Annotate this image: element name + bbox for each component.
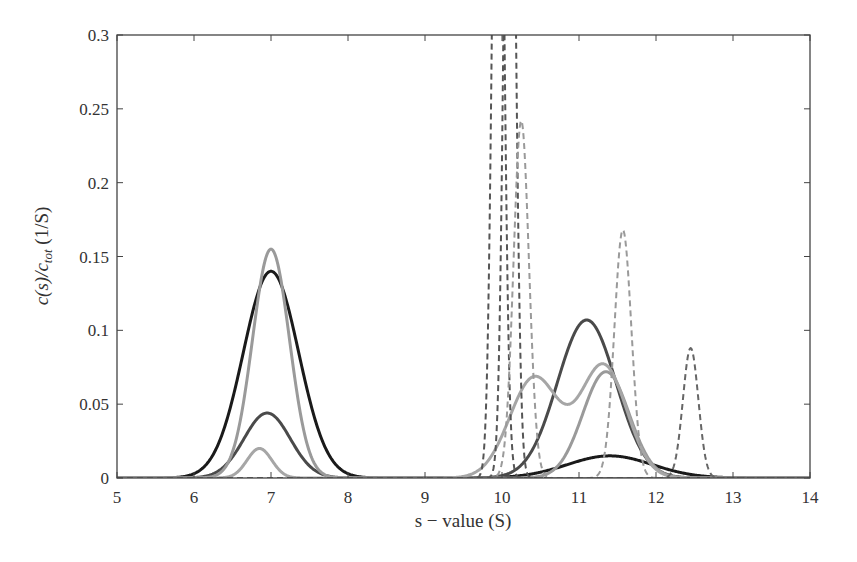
plot-frame: [117, 35, 810, 478]
x-tick-label: 9: [421, 488, 430, 507]
series-line-5: [117, 0, 810, 478]
x-tick-label: 10: [494, 488, 511, 507]
plot-curves: [117, 0, 810, 478]
y-tick-label: 0.1: [88, 321, 109, 340]
x-tick-label: 11: [571, 488, 587, 507]
series-line-3: [117, 364, 810, 478]
y-tick-label: 0: [101, 469, 110, 488]
x-tick-label: 14: [802, 488, 820, 507]
x-tick-label: 13: [725, 488, 742, 507]
series-line-6: [117, 121, 810, 478]
y-axis-label-sub: tot: [40, 249, 55, 263]
x-tick-label: 12: [648, 488, 665, 507]
y-axis-label-main: c(s)/c: [31, 263, 53, 306]
series-line-0: [117, 271, 810, 478]
y-tick-label: 0.3: [88, 26, 109, 45]
series-line-2: [117, 249, 810, 478]
y-tick-label: 0.2: [88, 174, 109, 193]
y-tick-label: 0.25: [79, 100, 109, 119]
x-tick-label: 6: [190, 488, 199, 507]
series-line-8: [117, 348, 810, 478]
y-tick-label: 0.15: [79, 248, 109, 267]
x-axis-label: s − value (S): [415, 510, 512, 532]
x-tick-label: 5: [113, 488, 122, 507]
series-line-4: [117, 0, 810, 478]
y-axis-label: c(s)/ctot (1/S): [31, 207, 55, 306]
series-line-1: [117, 320, 810, 478]
x-tick-label: 8: [344, 488, 353, 507]
y-axis-label-unit: (1/S): [31, 207, 53, 250]
y-tick-label: 0.05: [79, 395, 109, 414]
x-axis-ticks: 567891011121314: [113, 35, 819, 507]
x-tick-label: 7: [267, 488, 276, 507]
sedimentation-distribution-chart: 567891011121314 00.050.10.150.20.250.3 s…: [0, 0, 857, 562]
